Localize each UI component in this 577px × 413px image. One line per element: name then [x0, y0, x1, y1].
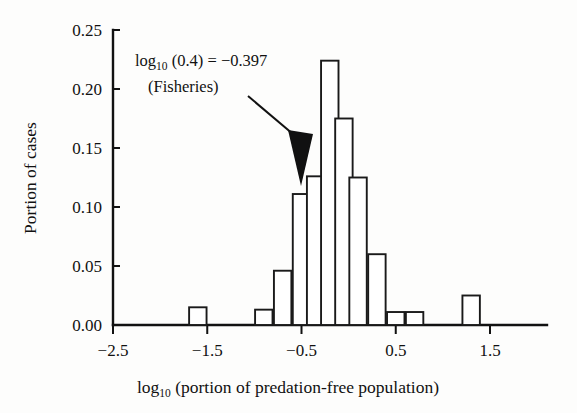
histogram-bar	[368, 254, 385, 325]
y-tick-label: 0.00	[72, 316, 102, 335]
histogram-bar	[387, 312, 404, 325]
x-tick-label: 1.5	[479, 341, 500, 360]
x-tick-label: −1.5	[192, 341, 223, 360]
x-axis-title: log10 (portion of predation-free populat…	[137, 377, 439, 399]
annotation-log-prefix: log	[135, 51, 156, 70]
chart-canvas: 0.000.050.100.150.200.25 −2.5−1.5−0.50.5…	[0, 0, 577, 413]
x-axis-title-rest: (portion of predation-free population)	[171, 377, 439, 397]
annotation-log-subscript: 10	[156, 60, 168, 72]
y-axis-title: Portion of cases	[20, 122, 40, 234]
x-tick-label: −2.5	[98, 341, 129, 360]
histogram-bar	[406, 312, 423, 325]
x-axis-title-subscript: 10	[159, 387, 171, 399]
histogram-bar	[274, 271, 291, 325]
histogram-bar	[189, 307, 206, 325]
x-tick-label: 0.5	[385, 341, 406, 360]
y-tick-label: 0.20	[72, 80, 102, 99]
x-tick-label: −0.5	[286, 341, 317, 360]
y-axis-tick-labels: 0.000.050.100.150.200.25	[72, 21, 102, 335]
histogram-bars	[189, 61, 480, 325]
x-axis-tick-labels: −2.5−1.5−0.50.51.5	[98, 341, 501, 360]
histogram-figure: 0.000.050.100.150.200.25 −2.5−1.5−0.50.5…	[0, 0, 577, 413]
annotation-line-1: log10 (0.4) = −0.397	[135, 51, 267, 72]
y-tick-label: 0.05	[72, 257, 102, 276]
histogram-bar	[255, 310, 272, 325]
histogram-bar	[349, 178, 366, 326]
x-axis-ticks	[113, 325, 490, 334]
y-tick-label: 0.15	[72, 139, 102, 158]
x-axis-title-prefix: log	[137, 377, 160, 397]
histogram-bar	[462, 296, 479, 326]
y-tick-label: 0.10	[72, 198, 102, 217]
y-tick-label: 0.25	[72, 21, 102, 40]
annotation-log-rest: (0.4) = −0.397	[168, 51, 268, 70]
annotation-line-2: (Fisheries)	[148, 77, 219, 96]
